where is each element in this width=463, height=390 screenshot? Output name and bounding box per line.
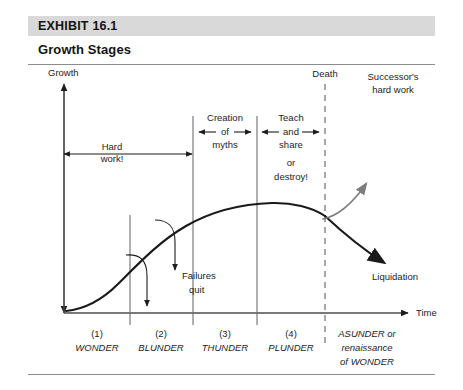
stage-3-number: (3) [219,328,231,339]
footer-divider [28,374,435,375]
annotation-hard-work: Hard work! [64,141,192,164]
myths-label-line2: of [221,126,229,137]
exhibit-page: EXHIBIT 16.1 Growth Stages [0,0,463,390]
myths-label-line1: Creation [207,112,243,123]
stage-3-name: THUNDER [202,342,249,353]
stage-1-name: WONDER [75,342,118,353]
final-stage-line1: ASUNDER or [337,328,396,339]
teach-label-line5: destroy! [274,171,308,182]
stage-4-number: (4) [285,328,297,339]
liquidation-branch [325,216,383,262]
growth-curve-group [66,184,383,311]
stage-dividers [130,84,325,346]
hard-work-label-line2: work! [100,153,124,164]
annotation-creation-of-myths: Creation of myths [199,112,251,150]
teach-label-line3: share [279,139,303,150]
annotation-successors-hard-work: Successor's hard work [368,71,419,95]
final-stage-line3: of WONDER [340,356,394,367]
final-stage-line2: renaissance [341,342,392,353]
death-label: Death [312,68,337,79]
stage-2-name: BLUNDER [138,342,184,353]
successor-branch [323,184,366,219]
teach-label-line2: and [283,126,299,137]
myths-label-line3: myths [212,139,238,150]
stage-4-name: PLUNDER [268,342,314,353]
stage-1-number: (1) [91,328,103,339]
annotation-teach-and-share: Teach and share or destroy! [262,112,319,182]
failures-label-line1: Failures [182,270,216,281]
teach-label-line1: Teach [278,112,303,123]
failures-arrow-1 [126,255,147,306]
successor-label-line1: Successor's [368,71,419,82]
successor-label-line2: hard work [372,84,414,95]
failures-label-line2: quit [189,284,205,295]
growth-stages-figure: Growth Time Hard work! Creation of myths [0,64,463,374]
exhibit-label: EXHIBIT 16.1 [38,17,118,35]
stage-labels: (1) WONDER (2) BLUNDER (3) THUNDER (4) P… [75,328,396,367]
hard-work-label-line1: Hard [102,141,123,152]
teach-label-line4: or [287,157,295,168]
x-axis-label: Time [416,307,437,318]
liquidation-label: Liquidation [372,271,418,282]
y-axis-label: Growth [48,67,79,78]
stage-2-number: (2) [155,328,167,339]
page-title: Growth Stages [38,42,131,58]
